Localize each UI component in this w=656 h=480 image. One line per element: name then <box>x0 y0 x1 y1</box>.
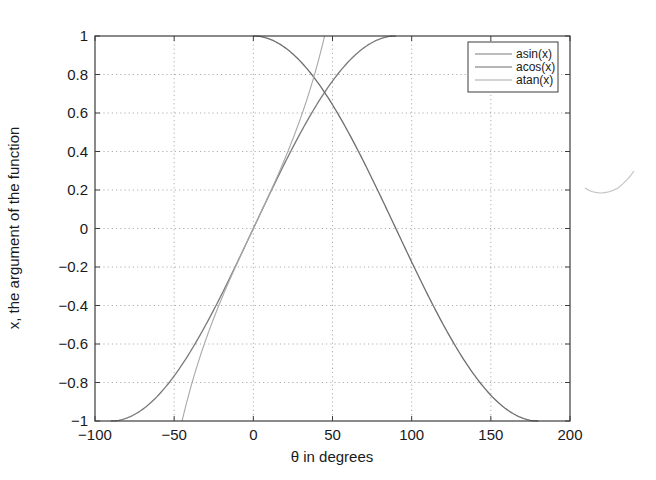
y-tick-label: −0.4 <box>58 297 88 314</box>
trig-inverse-chart: −100−50050100150200 10.80.60.40.20−0.2−0… <box>0 0 656 480</box>
y-tick-label: −0.8 <box>58 374 88 391</box>
series-line-atanx <box>182 36 324 421</box>
y-tick-label: −1 <box>71 412 88 429</box>
y-tick-label: 0 <box>80 220 88 237</box>
legend-label-asin: asin(x) <box>516 47 552 61</box>
series-line-acosx <box>253 36 538 421</box>
y-tick-label: −0.2 <box>58 258 88 275</box>
x-axis-label: θ in degrees <box>291 448 374 465</box>
y-tick-labels: 10.80.60.40.20−0.2−0.4−0.6−0.8−1 <box>58 27 88 429</box>
x-tick-label: 100 <box>399 426 424 443</box>
legend: asin(x) acos(x) atan(x) <box>468 42 558 92</box>
y-tick-label: 0.6 <box>67 104 88 121</box>
x-tick-label: 50 <box>324 426 341 443</box>
x-tick-label: −50 <box>161 426 186 443</box>
y-tick-label: 1 <box>80 27 88 44</box>
x-tick-label: 0 <box>249 426 257 443</box>
legend-label-atan: atan(x) <box>516 73 553 87</box>
legend-label-acos: acos(x) <box>516 60 555 74</box>
y-tick-label: 0.2 <box>67 181 88 198</box>
x-tick-label: 200 <box>557 426 582 443</box>
y-tick-label: 0.8 <box>67 66 88 83</box>
x-tick-label: 150 <box>478 426 503 443</box>
y-tick-label: −0.6 <box>58 335 88 352</box>
y-tick-label: 0.4 <box>67 143 88 160</box>
grid-lines <box>95 36 570 421</box>
x-tick-labels: −100−50050100150200 <box>78 426 582 443</box>
y-axis-label: x, the argument of the function <box>5 127 22 330</box>
scan-artifact-arc <box>585 171 634 193</box>
